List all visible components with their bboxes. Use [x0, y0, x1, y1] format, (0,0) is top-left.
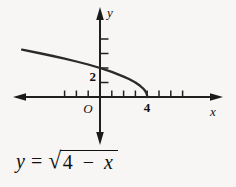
minus-sign: − — [83, 151, 94, 173]
x-tick-label-4: 4 — [144, 100, 151, 115]
equals-sign: = — [31, 150, 42, 173]
x-axis-label: x — [209, 104, 216, 119]
y-axis — [96, 7, 104, 145]
x-axis — [13, 93, 223, 101]
y-axis-label: y — [105, 5, 113, 20]
radicand-number: 4 — [63, 151, 73, 173]
function-curve — [22, 50, 147, 97]
equation-lhs: y — [16, 150, 25, 173]
y-tick-label-2: 2 — [90, 69, 97, 84]
sqrt-expression: √ 4 − x — [48, 150, 118, 174]
axis-ticks — [65, 39, 183, 97]
equation: y = √ 4 − x — [16, 150, 226, 182]
y-axis-arrow-top-icon — [96, 7, 104, 20]
radical-sign-icon: √ — [48, 149, 61, 173]
origin-label: O — [83, 101, 93, 116]
textbook-figure: y x O 4 2 y = √ 4 − x — [0, 0, 236, 187]
x-axis-arrow-right-icon — [210, 93, 223, 101]
radicand: 4 − x — [60, 150, 118, 174]
x-axis-arrow-left-icon — [13, 93, 26, 101]
y-axis-arrow-bottom-icon — [96, 132, 104, 145]
radicand-variable: x — [104, 151, 113, 173]
graph-canvas: y x O 4 2 — [0, 0, 236, 150]
